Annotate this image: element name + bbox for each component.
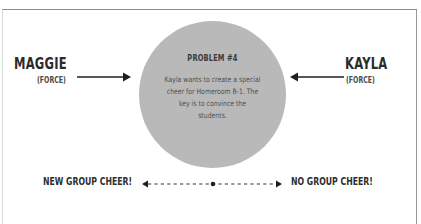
problem-title: PROBLEM #4 — [155, 52, 270, 63]
double-arrow-scale-icon — [141, 178, 283, 190]
right-arrow-icon — [76, 71, 132, 83]
new-group-cheer-label: NEW GROUP CHEER! — [43, 175, 132, 187]
problem-description: Kayla wants to create a special cheer fo… — [164, 74, 262, 122]
problem-circle: PROBLEM #4 Kayla wants to create a speci… — [139, 21, 286, 168]
right-force-label: (FORCE) — [346, 76, 375, 85]
left-arrow-icon — [289, 71, 345, 83]
no-group-cheer-label: NO GROUP CHEER! — [291, 175, 373, 187]
left-force-name: MAGGIE — [14, 54, 67, 73]
right-force-name: KAYLA — [345, 54, 387, 73]
left-force-label: (FORCE) — [37, 76, 66, 85]
